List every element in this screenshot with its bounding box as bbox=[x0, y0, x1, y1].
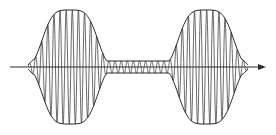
axis-arrow-icon bbox=[258, 64, 266, 70]
modulated-wave-diagram bbox=[0, 0, 276, 135]
